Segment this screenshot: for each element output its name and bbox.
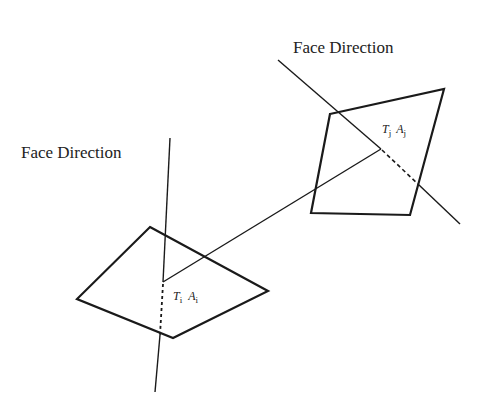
normal-i-solid-top	[163, 138, 170, 282]
face-j-label: TjAj	[382, 122, 406, 138]
face-j-A-sub: j	[403, 128, 407, 138]
face-j-polygon	[311, 89, 444, 215]
face-direction-diagram: Face Direction Face Direction TiAi TjAj	[0, 0, 483, 415]
normal-j-dashed	[382, 150, 419, 185]
face-j-T-sub: j	[388, 128, 392, 138]
normal-i-solid-bottom	[155, 335, 160, 392]
face-i-polygon	[77, 227, 268, 338]
normal-i-dashed	[160, 284, 163, 335]
face-direction-label-left: Face Direction	[21, 143, 122, 162]
normal-i	[155, 138, 170, 392]
face-i-T-sub: i	[180, 295, 183, 305]
connector-line	[163, 149, 381, 282]
face-i-label: TiAi	[173, 289, 199, 305]
normal-j-solid-bottom	[419, 185, 460, 224]
normal-j-solid-top	[278, 60, 381, 149]
face-i-A-sub: i	[196, 295, 199, 305]
normal-j	[278, 60, 460, 224]
face-direction-label-right: Face Direction	[293, 38, 394, 57]
